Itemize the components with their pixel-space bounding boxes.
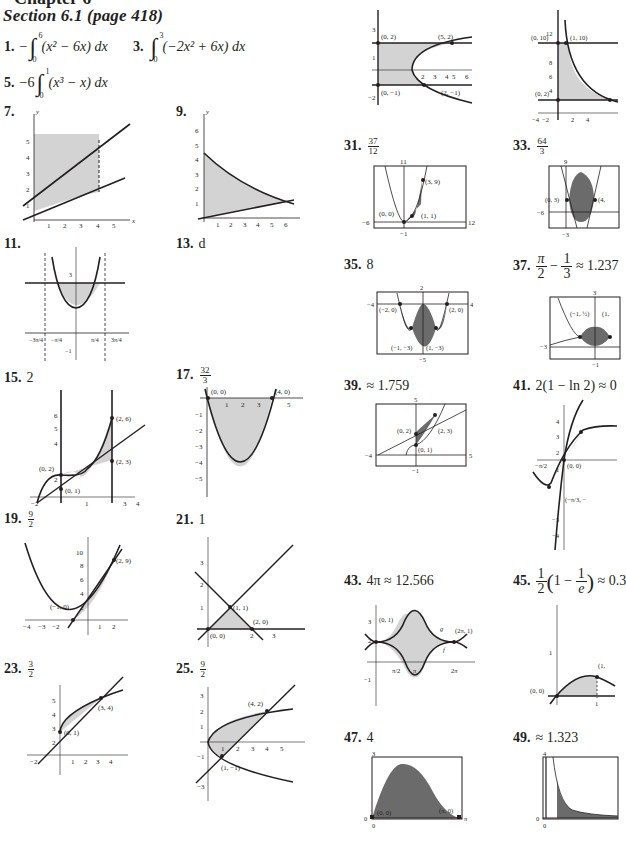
answer-1: 1.−∫60 (x² − 6x) dx	[4, 34, 108, 61]
svg-text:6: 6	[465, 73, 469, 81]
svg-text:−π/2: −π/2	[535, 462, 547, 469]
svg-text:4: 4	[96, 222, 100, 230]
svg-text:3π/4: 3π/4	[111, 337, 122, 343]
graph-19: (2, 9)(−1, 0) −4−3−212 246810	[20, 535, 135, 645]
graph-7: 12345 12345 yx	[20, 110, 135, 230]
svg-text:−6: −6	[362, 219, 370, 227]
svg-text:(3, 4): (3, 4)	[98, 704, 114, 712]
svg-text:4: 4	[52, 711, 56, 719]
svg-text:5: 5	[195, 142, 199, 150]
svg-text:5: 5	[414, 396, 417, 403]
svg-text:(0, 2): (0, 2)	[535, 90, 549, 98]
svg-text:3: 3	[195, 171, 199, 179]
svg-text:π/4: π/4	[91, 337, 99, 343]
svg-text:1: 1	[71, 758, 75, 766]
svg-text:1: 1	[556, 466, 559, 473]
graph-25: (4, 2)(1, −1) 12345 321−1−3	[195, 685, 310, 805]
svg-text:(3, 9): (3, 9)	[425, 178, 441, 186]
svg-text:4: 4	[445, 73, 449, 81]
answer-3: 3.∫30 (−2x² + 6x) dx	[133, 34, 245, 61]
graph-37: (−1, ½)(1, −3−13	[550, 290, 620, 365]
svg-text:(0, 0): (0, 0)	[377, 809, 391, 817]
svg-text:(2, 6): (2, 6)	[116, 415, 132, 423]
svg-text:3: 3	[200, 692, 204, 700]
svg-text:−1: −1	[195, 411, 203, 419]
svg-text:−1: −1	[400, 230, 408, 238]
svg-text:3: 3	[433, 73, 437, 81]
svg-text:6: 6	[54, 412, 58, 420]
svg-text:−4: −4	[532, 116, 540, 123]
graph-21: (1, 1)(2, 0)(0, 0) 23 123	[195, 535, 310, 650]
svg-text:2: 2	[571, 116, 574, 123]
svg-text:3: 3	[257, 401, 261, 409]
svg-text:(0, 2): (0, 2)	[397, 427, 411, 435]
svg-text:(0, 0): (0, 0)	[530, 687, 544, 695]
svg-text:2: 2	[421, 73, 425, 81]
svg-text:2: 2	[556, 449, 559, 456]
svg-text:(1, 1): (1, 1)	[233, 604, 249, 612]
section-heading: Section 6.1 (page 418)	[3, 6, 163, 26]
svg-text:−4: −4	[23, 623, 31, 631]
svg-text:8: 8	[549, 59, 552, 66]
graph-33: (0, 3)(4, −6−39	[549, 160, 619, 245]
svg-text:(0, 2): (0, 2)	[39, 465, 55, 473]
graph-29: (0, 10)(1, 10)(0, 2) −4−224 12864	[538, 5, 618, 125]
svg-text:1: 1	[372, 54, 376, 62]
svg-text:(2, 0): (2, 0)	[449, 306, 463, 314]
svg-text:9: 9	[564, 158, 567, 165]
svg-text:11: 11	[400, 158, 407, 166]
svg-text:0: 0	[536, 815, 539, 822]
svg-text:(1, −1): (1, −1)	[221, 764, 241, 772]
svg-text:−4: −4	[367, 301, 375, 308]
graph-11: −3π/4−π/4π/43π/4 3−1	[25, 245, 140, 365]
svg-text:5: 5	[469, 452, 472, 459]
graph-31: (3, 9)(0, 0)(1, 1) −612−111	[365, 160, 480, 240]
svg-text:3: 3	[372, 26, 376, 34]
svg-text:−3π/4: −3π/4	[29, 337, 43, 343]
answer-21: 21.1	[176, 512, 206, 528]
graph-43: (0, 1)(2π, 1)gf π/2π2π 32−1	[367, 600, 487, 710]
svg-text:−4: −4	[195, 459, 203, 467]
svg-text:(−2, 0): (−2, 0)	[379, 306, 397, 314]
graph-17: (0, 0)(4, 0) 1235 −1−2−3−4−5	[195, 385, 310, 500]
svg-text:5: 5	[280, 745, 284, 753]
svg-text:f: f	[443, 646, 446, 653]
svg-text:6: 6	[195, 127, 199, 135]
answer-47: 47.4	[344, 730, 374, 746]
svg-text:−1: −1	[65, 348, 71, 354]
answer-35: 35.8	[344, 257, 374, 273]
svg-text:4: 4	[109, 758, 113, 766]
svg-text:2: 2	[112, 623, 116, 631]
svg-text:0: 0	[543, 822, 546, 829]
svg-text:3: 3	[123, 500, 127, 508]
svg-text:4: 4	[556, 418, 560, 425]
svg-text:2: 2	[250, 632, 254, 640]
svg-text:−5: −5	[195, 475, 203, 483]
svg-text:3: 3	[26, 170, 30, 178]
svg-text:6: 6	[80, 576, 84, 584]
svg-text:2: 2	[54, 476, 58, 484]
svg-text:2: 2	[420, 284, 423, 291]
svg-text:−6: −6	[537, 209, 545, 216]
svg-text:10: 10	[76, 549, 84, 557]
graph-47: (0, 0)(π, 0) 0π03	[363, 752, 473, 832]
answer-41: 41.2(1 − ln 2) ≈ 0	[513, 378, 617, 394]
svg-text:5: 5	[452, 73, 456, 81]
svg-text:4: 4	[80, 590, 84, 598]
answer-33: 33.643	[513, 137, 549, 156]
svg-text:(0, 1): (0, 1)	[418, 446, 432, 454]
svg-text:π/2: π/2	[392, 667, 400, 674]
svg-text:5: 5	[112, 222, 116, 230]
svg-text:−3: −3	[197, 783, 205, 791]
svg-text:3: 3	[368, 618, 371, 625]
answer-7: 7.	[4, 104, 20, 120]
svg-text:(2, 9): (2, 9)	[116, 557, 132, 565]
svg-text:1: 1	[200, 723, 204, 731]
integral-sign: ∫30	[151, 34, 158, 61]
svg-text:2π: 2π	[451, 667, 458, 674]
answer-31: 31.3712	[344, 137, 380, 156]
integral-sign: ∫60	[29, 34, 36, 61]
svg-text:8: 8	[80, 562, 84, 570]
svg-text:1: 1	[221, 745, 225, 753]
svg-text:−2: −2	[52, 623, 60, 631]
